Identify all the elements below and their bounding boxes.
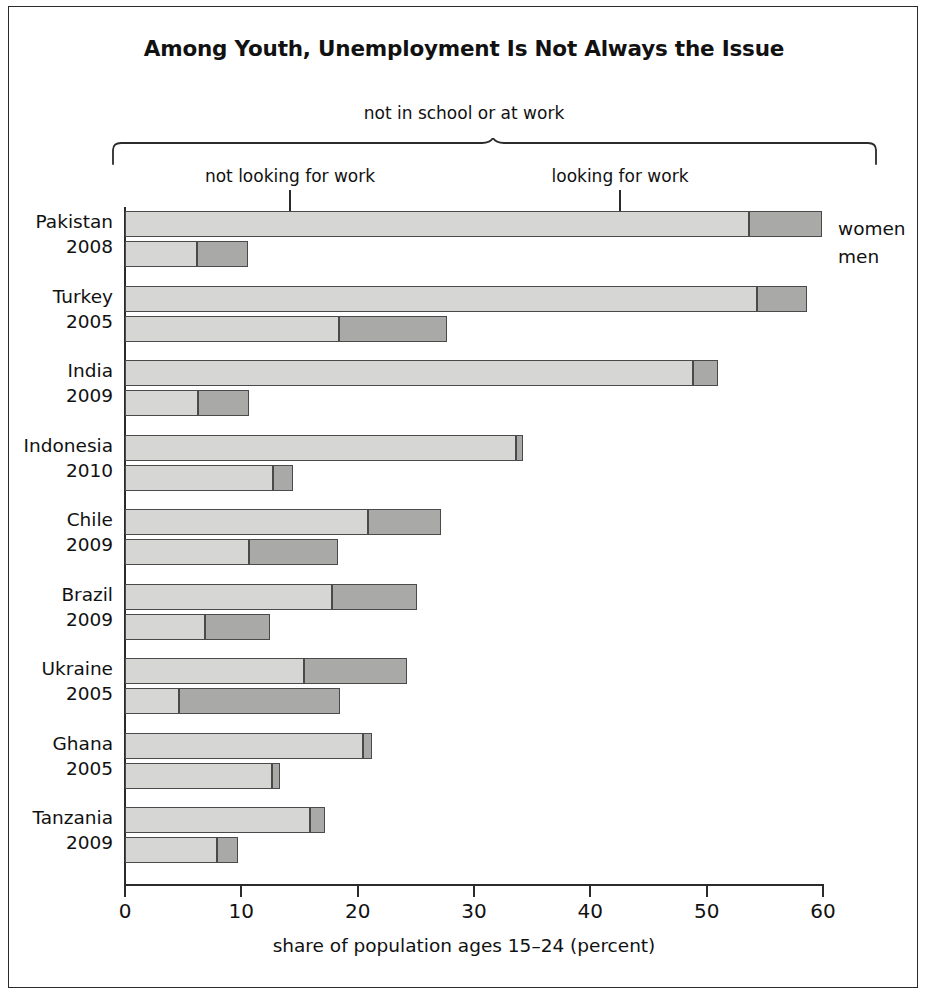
y-label-year: 2009 xyxy=(1,532,113,557)
bracket-caption: not in school or at work xyxy=(0,103,928,123)
segment-looking-for-work xyxy=(205,614,270,640)
x-tick-30 xyxy=(473,884,475,897)
bar-brazil-men xyxy=(125,614,270,640)
bar-ghana-men xyxy=(125,763,280,789)
y-axis-label-india: India2009 xyxy=(1,358,113,408)
segment-not-looking-for-work xyxy=(125,509,368,535)
bar-turkey-men xyxy=(125,316,447,342)
y-label-year: 2009 xyxy=(1,830,113,855)
y-label-country: Pakistan xyxy=(1,209,113,234)
bar-tanzania-men xyxy=(125,837,238,863)
y-label-year: 2005 xyxy=(1,681,113,706)
y-axis-label-turkey: Turkey2005 xyxy=(1,284,113,334)
y-label-country: India xyxy=(1,358,113,383)
y-label-country: Chile xyxy=(1,507,113,532)
figure-root: Among Youth, Unemployment Is Not Always … xyxy=(0,0,928,997)
x-tick-label-20: 20 xyxy=(345,899,370,923)
segment-looking-for-work xyxy=(368,509,441,535)
y-axis-label-pakistan: Pakistan2008 xyxy=(1,209,113,259)
y-axis-label-ghana: Ghana2005 xyxy=(1,731,113,781)
x-tick-0 xyxy=(124,884,126,897)
segment-looking-for-work xyxy=(693,360,719,386)
bar-india-women xyxy=(125,360,718,386)
plot-area: Pakistan2008Turkey2005India2009Indonesia… xyxy=(125,209,823,883)
range-bracket-icon xyxy=(110,138,882,166)
bar-ukraine-men xyxy=(125,688,340,714)
segment-looking-for-work xyxy=(179,688,341,714)
segment-looking-for-work xyxy=(198,390,249,416)
segment-looking-for-work xyxy=(363,733,371,759)
segment-not-looking-for-work xyxy=(125,211,749,237)
bar-turkey-women xyxy=(125,286,807,312)
segment-looking-for-work xyxy=(310,807,325,833)
series-label-men: men xyxy=(838,246,879,267)
x-tick-20 xyxy=(357,884,359,897)
bar-india-men xyxy=(125,390,249,416)
bar-brazil-women xyxy=(125,584,417,610)
segment-not-looking-for-work xyxy=(125,763,272,789)
segment-not-looking-for-work xyxy=(125,539,249,565)
bar-indonesia-women xyxy=(125,435,523,461)
y-axis-label-indonesia: Indonesia2010 xyxy=(1,433,113,483)
y-axis-label-tanzania: Tanzania2009 xyxy=(1,805,113,855)
segment-not-looking-for-work xyxy=(125,658,304,684)
bar-indonesia-men xyxy=(125,465,293,491)
x-tick-label-10: 10 xyxy=(229,899,254,923)
series-label-women: women xyxy=(838,218,906,239)
segment-looking-for-work xyxy=(304,658,406,684)
bar-tanzania-women xyxy=(125,807,325,833)
segment-not-looking-for-work xyxy=(125,435,516,461)
y-axis-label-chile: Chile2009 xyxy=(1,507,113,557)
y-label-country: Ukraine xyxy=(1,656,113,681)
segment-not-looking-for-work xyxy=(125,316,339,342)
x-tick-60 xyxy=(822,884,824,897)
segment-label-looking-for-work: looking for work xyxy=(552,166,689,186)
x-tick-label-0: 0 xyxy=(119,899,132,923)
segment-not-looking-for-work xyxy=(125,390,198,416)
x-tick-10 xyxy=(240,884,242,897)
bar-ghana-women xyxy=(125,733,372,759)
x-axis-title: share of population ages 15–24 (percent) xyxy=(0,935,928,956)
bar-ukraine-women xyxy=(125,658,407,684)
segment-looking-for-work xyxy=(749,211,822,237)
x-tick-50 xyxy=(706,884,708,897)
x-tick-label-50: 50 xyxy=(694,899,719,923)
segment-looking-for-work xyxy=(757,286,807,312)
y-label-year: 2009 xyxy=(1,383,113,408)
y-label-year: 2005 xyxy=(1,309,113,334)
x-tick-label-60: 60 xyxy=(810,899,835,923)
segment-label-not-looking-for-work: not looking for work xyxy=(205,166,375,186)
segment-not-looking-for-work xyxy=(125,465,273,491)
segment-looking-for-work xyxy=(217,837,238,863)
segment-looking-for-work xyxy=(249,539,337,565)
segment-looking-for-work xyxy=(339,316,447,342)
segment-looking-for-work xyxy=(273,465,293,491)
segment-not-looking-for-work xyxy=(125,360,693,386)
y-label-year: 2009 xyxy=(1,607,113,632)
y-label-country: Tanzania xyxy=(1,805,113,830)
segment-looking-for-work xyxy=(272,763,280,789)
bar-chile-women xyxy=(125,509,441,535)
segment-looking-for-work xyxy=(516,435,523,461)
segment-not-looking-for-work xyxy=(125,837,217,863)
y-label-year: 2010 xyxy=(1,458,113,483)
segment-not-looking-for-work xyxy=(125,584,332,610)
segment-not-looking-for-work xyxy=(125,688,179,714)
y-label-country: Ghana xyxy=(1,731,113,756)
bar-chile-men xyxy=(125,539,338,565)
segment-not-looking-for-work xyxy=(125,241,197,267)
bar-pakistan-women xyxy=(125,211,822,237)
x-tick-label-40: 40 xyxy=(578,899,603,923)
y-axis-label-ukraine: Ukraine2005 xyxy=(1,656,113,706)
segment-looking-for-work xyxy=(332,584,417,610)
x-tick-label-30: 30 xyxy=(461,899,486,923)
segment-not-looking-for-work xyxy=(125,733,363,759)
bar-pakistan-men xyxy=(125,241,248,267)
segment-not-looking-for-work xyxy=(125,807,310,833)
y-axis-label-brazil: Brazil2009 xyxy=(1,582,113,632)
x-tick-40 xyxy=(589,884,591,897)
segment-not-looking-for-work xyxy=(125,614,205,640)
y-label-year: 2005 xyxy=(1,756,113,781)
segment-not-looking-for-work xyxy=(125,286,757,312)
chart-title: Among Youth, Unemployment Is Not Always … xyxy=(0,36,928,61)
